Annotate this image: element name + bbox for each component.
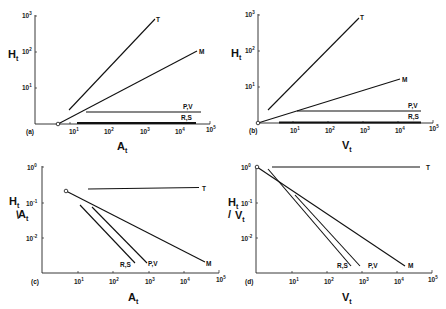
x-tick-label: 101 xyxy=(69,127,79,135)
x-tick-label: 105 xyxy=(206,125,216,133)
origin-marker xyxy=(256,121,260,125)
origin-marker xyxy=(255,165,259,169)
y-tick-label: 102 xyxy=(245,46,255,54)
panel-c: 100 10-1 10-2 101 102 103 104 105 (c) Ht… xyxy=(9,163,226,305)
series-label-PV: P,V xyxy=(368,262,378,270)
x-tick-label: 101 xyxy=(74,277,84,285)
panel-d: 100 10-1 10-2 101 102 103 104 105 (d) Ht… xyxy=(228,163,438,305)
x-tick-label: 104 xyxy=(395,126,405,134)
y-tick-label: 101 xyxy=(245,82,255,90)
y-tick-label: 10-2 xyxy=(26,234,38,242)
series-label-PV: P,V xyxy=(148,260,158,268)
series-M xyxy=(258,79,400,123)
panel-tag: (b) xyxy=(249,127,257,135)
panel-tag: (d) xyxy=(245,278,253,286)
x-tick-label: 102 xyxy=(325,126,335,134)
series-T xyxy=(88,188,199,190)
series-label-T: T xyxy=(360,14,364,21)
x-tick-label: 105 xyxy=(216,275,226,283)
x-tick-label: 105 xyxy=(428,275,438,283)
series-label-PV: P,V xyxy=(408,102,418,110)
series-label-M: M xyxy=(402,76,407,83)
panel-tag: (a) xyxy=(26,128,34,136)
x-tick-label: 102 xyxy=(324,277,334,285)
series-label-T: T xyxy=(426,164,430,171)
x-axis-label: At xyxy=(117,140,128,154)
x-tick-label: 104 xyxy=(394,277,404,285)
x-tick-label: 102 xyxy=(109,277,119,285)
x-tick-label: 102 xyxy=(104,127,114,135)
y-tick-label: 10-1 xyxy=(241,199,253,207)
x-tick-label: 101 xyxy=(289,277,299,285)
series-RS xyxy=(268,169,351,266)
x-tick-label: 104 xyxy=(180,277,190,285)
y-tick-label: 102 xyxy=(22,47,32,55)
origin-marker xyxy=(56,122,60,126)
y-axis-label-denominator: At xyxy=(18,208,29,222)
y-axis-label-numerator: Ht xyxy=(9,195,20,209)
x-tick-label: 101 xyxy=(290,126,300,134)
figure-canvas: 103 102 101 101 102 103 104 105 (a) Ht A… xyxy=(0,0,446,309)
x-tick-label: 105 xyxy=(429,124,439,132)
y-tick-label: 103 xyxy=(22,11,32,19)
y-axis-label-denominator: Vt xyxy=(235,209,245,223)
panel-tag: (c) xyxy=(31,278,39,286)
y-tick-label: 10-1 xyxy=(26,199,38,207)
y-tick-label: 10-2 xyxy=(241,234,253,242)
series-label-RS: R,S xyxy=(408,113,420,121)
series-label-M: M xyxy=(206,260,211,267)
series-M xyxy=(58,51,197,124)
series-label-T: T xyxy=(202,185,206,192)
panel-a: 103 102 101 101 102 103 104 105 (a) Ht A… xyxy=(8,11,216,154)
y-axis-label: Ht xyxy=(8,48,19,62)
series-label-M: M xyxy=(408,262,413,269)
origin-marker xyxy=(64,189,68,193)
series-label-RS: R,S xyxy=(181,114,193,122)
series-RS xyxy=(80,205,135,263)
series-label-RS: R,S xyxy=(337,262,349,270)
series-T xyxy=(69,19,155,110)
y-tick-label: 101 xyxy=(22,83,32,91)
series-PV xyxy=(295,195,360,266)
series-PV xyxy=(92,207,147,263)
x-axis-label: Vt xyxy=(342,291,352,305)
x-tick-label: 103 xyxy=(140,127,150,135)
y-tick-label: 100 xyxy=(27,163,37,171)
series-label-RS: R,S xyxy=(120,261,132,269)
x-tick-label: 103 xyxy=(145,277,155,285)
y-axis-label: Ht xyxy=(231,47,242,61)
y-tick-label: 103 xyxy=(245,10,255,18)
y-axis-label-slash: / xyxy=(228,208,231,220)
panel-b: 103 102 101 101 102 103 104 105 (b) Ht V… xyxy=(231,10,439,153)
x-tick-label: 103 xyxy=(359,277,369,285)
series-label-PV: P,V xyxy=(183,103,193,111)
series-label-T: T xyxy=(156,16,160,23)
x-axis-label: At xyxy=(128,291,139,305)
x-tick-label: 104 xyxy=(175,127,185,135)
x-tick-label: 103 xyxy=(360,126,370,134)
x-axis-label: Vt xyxy=(342,139,352,153)
series-label-M: M xyxy=(199,48,204,55)
y-tick-label: 100 xyxy=(241,163,251,171)
